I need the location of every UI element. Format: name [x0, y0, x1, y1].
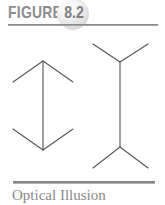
left-figure-inward-arrows	[13, 61, 73, 150]
left-bottom-left-fin	[13, 129, 43, 150]
right-top-right-fin	[120, 44, 148, 62]
left-bottom-right-fin	[43, 129, 73, 150]
figure-label: FIGURE	[8, 3, 62, 22]
right-figure-outward-arrows	[93, 44, 148, 168]
right-bottom-right-fin	[120, 147, 148, 168]
muller-lyer-svg	[0, 30, 165, 180]
figure-header: FIGURE 8.2	[0, 0, 165, 30]
figure-panel: FIGURE 8.2 Optical Illusion	[0, 0, 165, 205]
right-bottom-left-fin	[93, 147, 120, 168]
illustration-muller-lyer	[0, 30, 165, 180]
header-divider	[8, 24, 158, 26]
right-top-left-fin	[93, 44, 120, 62]
figure-number: 8.2	[61, 4, 87, 22]
left-top-left-fin	[13, 61, 43, 82]
caption-divider	[13, 181, 155, 184]
figure-caption: Optical Illusion	[12, 186, 106, 204]
left-top-right-fin	[43, 61, 73, 82]
